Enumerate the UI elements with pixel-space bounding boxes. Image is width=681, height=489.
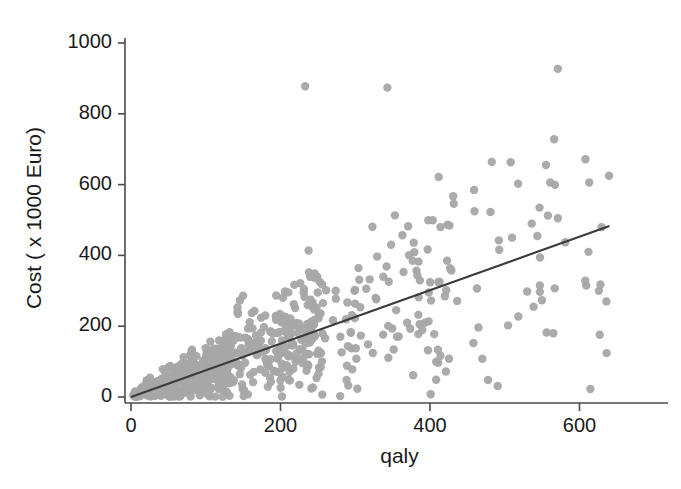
data-point <box>602 349 610 357</box>
data-point <box>470 186 478 194</box>
data-point <box>495 236 503 244</box>
y-tick-label: 200 <box>20 313 112 336</box>
data-point <box>305 268 313 276</box>
data-point <box>364 340 372 348</box>
data-point <box>292 350 300 358</box>
data-point <box>536 288 544 296</box>
data-point <box>443 256 451 264</box>
data-point <box>249 378 257 386</box>
data-point <box>554 65 562 73</box>
data-point <box>306 300 314 308</box>
data-point <box>384 354 392 362</box>
data-point <box>424 346 432 354</box>
data-point <box>582 281 590 289</box>
data-point <box>418 326 426 334</box>
data-point <box>343 298 351 306</box>
data-point <box>352 354 360 362</box>
data-point <box>274 368 282 376</box>
data-point <box>318 390 326 398</box>
data-point <box>393 332 401 340</box>
data-point <box>409 371 417 379</box>
data-point <box>429 216 437 224</box>
data-point <box>144 381 152 389</box>
data-point <box>250 307 258 315</box>
data-point <box>302 367 310 375</box>
data-point <box>410 238 418 246</box>
data-point <box>282 361 290 369</box>
x-axis-title: qaly <box>131 444 668 468</box>
data-point <box>398 231 406 239</box>
data-point <box>581 155 589 163</box>
data-point <box>354 264 362 272</box>
data-point <box>304 246 312 254</box>
data-point <box>595 331 603 339</box>
data-point <box>355 276 363 284</box>
data-point <box>309 383 317 391</box>
data-point <box>551 284 559 292</box>
data-point <box>248 324 256 332</box>
data-point <box>605 172 613 180</box>
data-point <box>514 180 522 188</box>
data-point <box>391 211 399 219</box>
data-point <box>495 246 503 254</box>
data-point <box>314 369 322 377</box>
data-point <box>351 286 359 294</box>
data-point <box>301 82 309 90</box>
data-point <box>504 321 512 329</box>
data-point <box>314 288 322 296</box>
data-point <box>291 304 299 312</box>
x-tick-label: 0 <box>91 414 171 437</box>
data-point <box>596 280 604 288</box>
data-point <box>249 368 257 376</box>
data-point <box>181 388 189 396</box>
data-point <box>427 296 435 304</box>
data-point <box>488 158 496 166</box>
data-point <box>264 383 272 391</box>
data-point <box>319 299 327 307</box>
data-point <box>453 297 461 305</box>
data-point <box>584 248 592 256</box>
data-point <box>342 376 350 384</box>
data-point <box>234 361 242 369</box>
data-point <box>178 364 186 372</box>
data-point <box>298 359 306 367</box>
data-point <box>379 330 387 338</box>
data-point <box>185 361 193 369</box>
data-point <box>204 385 212 393</box>
data-point <box>336 333 344 341</box>
data-point <box>206 337 214 345</box>
data-point <box>486 208 494 216</box>
data-point <box>266 327 274 335</box>
data-point <box>362 285 370 293</box>
data-point <box>542 161 550 169</box>
data-point <box>357 331 365 339</box>
data-point <box>585 178 593 186</box>
y-tick-label: 0 <box>20 384 112 407</box>
data-point <box>318 280 326 288</box>
data-point <box>389 345 397 353</box>
data-point <box>276 383 284 391</box>
x-tick-label: 600 <box>540 414 620 437</box>
data-point <box>211 392 219 400</box>
data-point <box>300 285 308 293</box>
data-point <box>337 348 345 356</box>
data-point <box>533 232 541 240</box>
data-point <box>403 319 411 327</box>
data-point <box>353 385 361 393</box>
data-point <box>223 349 231 357</box>
data-point <box>218 393 226 401</box>
data-point <box>420 318 428 326</box>
data-point <box>494 382 502 390</box>
data-point <box>300 293 308 301</box>
data-point <box>314 349 322 357</box>
data-point <box>352 344 360 352</box>
data-point <box>441 292 449 300</box>
data-point <box>253 337 261 345</box>
data-point <box>165 372 173 380</box>
data-point <box>278 392 286 400</box>
y-axis-title: Cost ( x 1000 Euro) <box>22 88 46 348</box>
data-point <box>281 287 289 295</box>
data-point <box>383 83 391 91</box>
data-point <box>410 248 418 256</box>
data-point <box>469 339 477 347</box>
